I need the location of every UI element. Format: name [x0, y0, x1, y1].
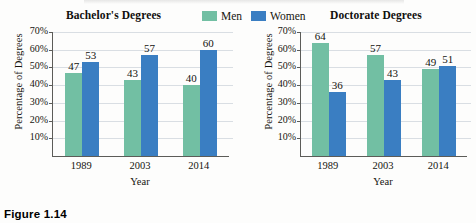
- chart-title-doctorate: Doctorate Degrees: [330, 9, 422, 21]
- plot-area-bachelors: 475343574060: [52, 32, 229, 157]
- bar-women-2003[interactable]: 57: [141, 32, 158, 156]
- bar-group: 4951: [422, 32, 456, 156]
- bar-rect: [422, 69, 439, 156]
- x-axis-ticks-doctorate: 198920032014: [300, 160, 466, 171]
- bar-value-label: 49: [425, 56, 436, 68]
- legend-label-men: Men: [221, 10, 242, 22]
- bar-women-2014[interactable]: 60: [200, 32, 217, 156]
- y-tick-label: 50%: [268, 60, 296, 71]
- bar-rect: [200, 50, 217, 156]
- bar-value-label: 57: [144, 42, 155, 54]
- y-tick-label: 70%: [20, 25, 48, 36]
- bar-group: 4753: [65, 32, 99, 156]
- x-tick-label: 2014: [177, 160, 221, 171]
- bar-value-label: 60: [203, 37, 214, 49]
- bar-men-2003[interactable]: 57: [367, 32, 384, 156]
- bar-rect: [329, 92, 346, 156]
- cropped-title-artifact: [84, 0, 404, 4]
- x-tick-label: 1989: [306, 160, 350, 171]
- bar-rect: [367, 55, 384, 156]
- bar-rect: [65, 73, 82, 156]
- y-tick-label: 30%: [268, 96, 296, 107]
- bar-value-label: 57: [370, 42, 381, 54]
- y-tick-label: 40%: [20, 78, 48, 89]
- bar-men-1989[interactable]: 47: [65, 32, 82, 156]
- y-tick-label: 70%: [268, 25, 296, 36]
- bar-groups-bachelors: 475343574060: [53, 32, 229, 156]
- bar-value-label: 51: [442, 53, 453, 65]
- figure-header: Bachelor's Degrees Men Women Doctorate D…: [0, 9, 476, 27]
- x-tick-label: 1989: [59, 160, 103, 171]
- bar-value-label: 43: [387, 67, 398, 79]
- x-axis-label-doctorate: Year: [300, 176, 466, 187]
- y-tick-label: 60%: [268, 43, 296, 54]
- x-axis-label-bachelors: Year: [52, 176, 228, 187]
- chart-panel-bachelors: Percentage of Degrees 10%20%30%40%50%60%…: [0, 26, 238, 198]
- x-tick-label: 2003: [361, 160, 405, 171]
- bar-women-2003[interactable]: 43: [384, 32, 401, 156]
- bar-value-label: 47: [68, 60, 79, 72]
- bar-rect: [82, 62, 99, 156]
- bar-women-1989[interactable]: 36: [329, 32, 346, 156]
- bar-rect: [124, 80, 141, 156]
- bar-women-1989[interactable]: 53: [82, 32, 99, 156]
- plot-area-doctorate: 643657434951: [300, 32, 467, 157]
- legend-entry-women: Women: [251, 10, 305, 22]
- bar-rect: [384, 80, 401, 156]
- bar-group: 4357: [124, 32, 158, 156]
- bar-rect: [183, 85, 200, 156]
- bar-value-label: 53: [85, 49, 96, 61]
- legend: Men Women: [202, 10, 306, 22]
- legend-swatch-women: [251, 11, 266, 21]
- legend-entry-men: Men: [202, 10, 242, 22]
- bar-rect: [439, 66, 456, 156]
- bar-groups-doctorate: 643657434951: [301, 32, 467, 156]
- bar-value-label: 36: [332, 79, 343, 91]
- bar-rect: [141, 55, 158, 156]
- legend-label-women: Women: [270, 10, 305, 22]
- y-tick-label: 60%: [20, 43, 48, 54]
- chart-panel-doctorate: Percentage of Degrees 10%20%30%40%50%60%…: [238, 26, 476, 198]
- bar-value-label: 64: [315, 30, 326, 42]
- x-tick-label: 2003: [118, 160, 162, 171]
- bar-rect: [312, 43, 329, 156]
- y-tick-label: 20%: [20, 114, 48, 125]
- bar-women-2014[interactable]: 51: [439, 32, 456, 156]
- y-tick-label: 30%: [20, 96, 48, 107]
- bar-men-1989[interactable]: 64: [312, 32, 329, 156]
- bar-men-2014[interactable]: 40: [183, 32, 200, 156]
- legend-swatch-men: [202, 11, 217, 21]
- y-tick-label: 50%: [20, 60, 48, 71]
- bar-group: 5743: [367, 32, 401, 156]
- chart-title-bachelors: Bachelor's Degrees: [66, 9, 161, 21]
- bar-men-2014[interactable]: 49: [422, 32, 439, 156]
- bar-group: 6436: [312, 32, 346, 156]
- bar-men-2003[interactable]: 43: [124, 32, 141, 156]
- x-axis-ticks-bachelors: 198920032014: [52, 160, 228, 171]
- bar-group: 4060: [183, 32, 217, 156]
- bar-value-label: 43: [127, 67, 138, 79]
- y-tick-label: 10%: [268, 131, 296, 142]
- figure-caption: Figure 1.14: [4, 208, 67, 220]
- y-tick-label: 40%: [268, 78, 296, 89]
- x-tick-label: 2014: [416, 160, 460, 171]
- bar-value-label: 40: [186, 72, 197, 84]
- y-tick-label: 10%: [20, 131, 48, 142]
- y-tick-label: 20%: [268, 114, 296, 125]
